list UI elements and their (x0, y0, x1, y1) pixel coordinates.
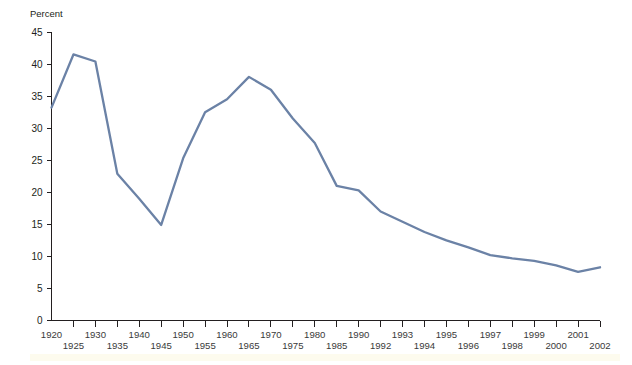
x-tick-label: 2000 (545, 340, 566, 351)
x-tick-label: 1985 (326, 340, 347, 351)
y-tick-label: 40 (31, 59, 43, 70)
y-axis-ticks: 051015202530354045 (31, 27, 51, 327)
y-tick-label: 25 (31, 155, 43, 166)
x-tick-label: 2002 (589, 340, 610, 351)
y-tick-label: 5 (37, 283, 43, 294)
y-tick-label: 35 (31, 91, 43, 102)
x-tick-label: 1955 (194, 340, 215, 351)
x-tick-label: 1970 (260, 329, 281, 340)
x-tick-label: 1995 (436, 329, 457, 340)
x-tick-label: 1965 (238, 340, 259, 351)
y-tick-label: 20 (31, 187, 43, 198)
x-tick-label: 1999 (524, 329, 545, 340)
footer-color-band (30, 354, 620, 361)
y-tick-label: 45 (31, 27, 43, 38)
x-tick-label: 1975 (282, 340, 303, 351)
x-tick-label: 1930 (85, 329, 106, 340)
x-tick-label: 1960 (216, 329, 237, 340)
x-tick-label: 1980 (304, 329, 325, 340)
x-tick-label: 1994 (414, 340, 436, 351)
x-tick-label: 1925 (63, 340, 84, 351)
data-series-line (52, 54, 601, 271)
x-tick-label: 1990 (348, 329, 369, 340)
y-axis-title: Percent (30, 8, 63, 19)
y-tick-label: 30 (31, 123, 43, 134)
x-axis-ticks (73, 321, 600, 327)
x-tick-label: 1996 (458, 340, 479, 351)
x-tick-label: 1993 (392, 329, 413, 340)
x-tick-label: 1935 (107, 340, 128, 351)
x-tick-label: 1950 (172, 329, 193, 340)
x-axis-tick-labels: 1920192519301935194019451950195519601965… (41, 329, 611, 351)
y-tick-label: 0 (37, 315, 43, 326)
x-tick-label: 1998 (502, 340, 523, 351)
x-tick-label: 1945 (151, 340, 172, 351)
x-tick-label: 1940 (129, 329, 150, 340)
chart-container: Percent 051015202530354045 1920192519301… (0, 0, 632, 365)
line-chart: Percent 051015202530354045 1920192519301… (0, 0, 632, 365)
x-tick-label: 2001 (567, 329, 588, 340)
y-tick-label: 10 (31, 251, 43, 262)
y-tick-label: 15 (31, 219, 43, 230)
x-tick-label: 1997 (480, 329, 501, 340)
x-tick-label: 1920 (41, 329, 62, 340)
x-tick-label: 1992 (370, 340, 391, 351)
